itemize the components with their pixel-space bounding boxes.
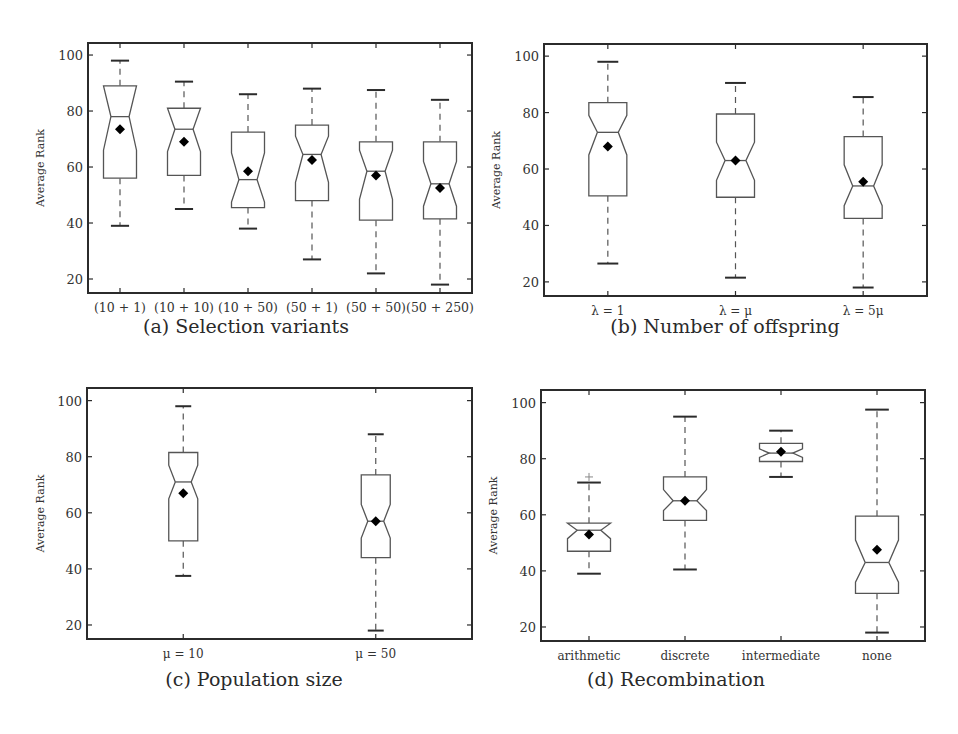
box-3 [296, 89, 329, 260]
box-0 [589, 62, 627, 264]
box-4 [360, 90, 393, 273]
y-tick-label: 80 [66, 104, 83, 119]
box-0 [104, 61, 137, 226]
y-tick-label: 60 [65, 506, 82, 521]
box-1 [168, 82, 201, 209]
box-1 [664, 417, 707, 570]
y-tick-label: 80 [519, 452, 536, 467]
panel-d-recombination: 20406080100Average Rankarithmeticdiscret… [487, 390, 925, 663]
y-tick-label: 40 [519, 564, 536, 579]
y-tick-label: 100 [57, 394, 82, 409]
x-tick-label: intermediate [742, 649, 820, 663]
y-tick-label: 20 [65, 618, 82, 633]
outlier-marker [585, 473, 593, 481]
box-2 [760, 431, 803, 477]
x-tick-label: discrete [660, 649, 709, 663]
y-tick-label: 100 [511, 396, 536, 411]
x-tick-label: λ = 5μ [843, 304, 884, 318]
y-tick-label: 20 [522, 275, 539, 290]
y-tick-label: 80 [522, 106, 539, 121]
panel-a-selection-variants: 20406080100Average Rank(10 + 1)(10 + 10)… [34, 43, 474, 315]
caption-a: (a) Selection variants [143, 315, 349, 337]
y-tick-label: 60 [519, 508, 536, 523]
x-tick-label: μ = 10 [163, 647, 204, 661]
box-5 [424, 100, 457, 285]
axes-frame [541, 390, 925, 641]
x-tick-label: arithmetic [557, 649, 620, 663]
y-tick-label: 60 [522, 162, 539, 177]
y-tick-label: 60 [66, 160, 83, 175]
y-tick-label: 100 [58, 48, 83, 63]
y-tick-label: 80 [65, 450, 82, 465]
panel-b-number-of-offspring: 20406080100Average Rankλ = 1λ = μλ = 5μ [490, 44, 927, 318]
x-tick-label: (50 + 250) [406, 300, 474, 315]
x-tick-label: (10 + 1) [94, 300, 146, 315]
y-tick-label: 40 [66, 216, 83, 231]
y-tick-label: 40 [522, 218, 539, 233]
x-tick-label: (10 + 10) [154, 300, 214, 315]
y-axis-label: Average Rank [490, 131, 503, 210]
boxplot-figure: 20406080100Average Rank(10 + 1)(10 + 10)… [0, 0, 958, 734]
x-tick-label: (50 + 1) [286, 300, 338, 315]
box-2 [844, 97, 882, 287]
box-1 [717, 83, 755, 278]
box-3 [856, 410, 899, 633]
y-tick-label: 100 [514, 49, 539, 64]
box-0 [568, 473, 611, 574]
caption-c: (c) Population size [165, 668, 342, 690]
x-tick-label: (10 + 50) [218, 300, 278, 315]
x-tick-label: none [862, 649, 892, 663]
y-tick-label: 20 [519, 620, 536, 635]
x-tick-label: (50 + 50) [346, 300, 406, 315]
caption-d: (d) Recombination [587, 668, 765, 690]
axes-frame [87, 388, 472, 639]
y-axis-label: Average Rank [34, 474, 47, 553]
figure: 20406080100Average Rank(10 + 1)(10 + 10)… [0, 0, 958, 734]
box-2 [232, 94, 265, 228]
y-axis-label: Average Rank [487, 476, 500, 555]
axes-frame [88, 43, 472, 293]
box-0 [169, 406, 198, 576]
panel-c-population-size: 20406080100Average Rankμ = 10μ = 50 [34, 388, 472, 661]
y-tick-label: 20 [66, 272, 83, 287]
x-tick-label: μ = 50 [355, 647, 396, 661]
box-1 [361, 434, 390, 630]
y-tick-label: 40 [65, 562, 82, 577]
y-axis-label: Average Rank [34, 129, 47, 208]
caption-b: (b) Number of offspring [610, 315, 839, 337]
